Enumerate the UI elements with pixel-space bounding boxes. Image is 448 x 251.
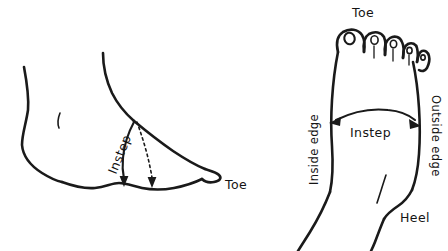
outside-edge-label: Outside edge — [429, 95, 443, 177]
top-instep-label: Instep — [350, 125, 391, 140]
foot-measurement-diagram: Instep Toe — [0, 0, 448, 251]
inside-edge-label: Inside edge — [307, 114, 321, 185]
foot-diagram-canvas: Instep Toe — [0, 0, 448, 251]
side-toe-label: Toe — [224, 177, 247, 192]
top-toe-label: Toe — [351, 5, 374, 20]
heel-label: Heel — [400, 210, 430, 225]
